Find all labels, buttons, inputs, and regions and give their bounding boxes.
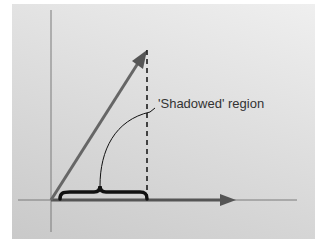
curly-brace bbox=[60, 186, 147, 199]
projection-arrowhead-icon bbox=[220, 194, 236, 206]
diagonal-arrowhead-icon bbox=[132, 50, 147, 69]
shadowed-region-label: 'Shadowed' region bbox=[158, 96, 264, 111]
leader-curve bbox=[100, 108, 155, 186]
vector-projection-diagram bbox=[0, 0, 325, 247]
diagonal-vector bbox=[51, 60, 140, 200]
